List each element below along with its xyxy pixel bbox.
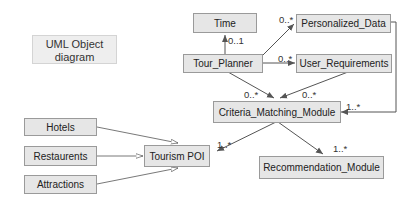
mult-personalized-criteria: 1..* (346, 101, 360, 112)
mult-tour-time: 0..1 (228, 35, 244, 46)
diagram-title-line2: diagram (33, 51, 116, 64)
mult-tour-personalized: 0..* (279, 14, 293, 25)
node-criteria-matching-module[interactable]: Criteria_Matching_Module (213, 101, 341, 123)
mult-tour-criteria: 0..* (244, 89, 258, 100)
node-recommendation-module-label: Recommendation_Module (263, 162, 380, 173)
diagram-title: UML Object diagram (32, 35, 117, 64)
node-attractions[interactable]: Attractions (24, 175, 97, 194)
node-user-requirements-label: User_Requirements (300, 58, 389, 69)
node-hotels-label: Hotels (46, 122, 74, 133)
mult-criteria-poi: 1..* (217, 139, 231, 150)
node-time[interactable]: Time (193, 13, 257, 33)
node-attractions-label: Attractions (37, 179, 84, 190)
mult-criteria-recommendation: 1..* (333, 143, 347, 154)
node-tour-planner[interactable]: Tour_Planner (183, 54, 263, 73)
node-personalized-data[interactable]: Personalized_Data (296, 14, 391, 33)
node-restaurents-label: Restaurents (34, 151, 88, 162)
mult-tour-userreq: 0..* (278, 53, 292, 64)
node-time-label: Time (214, 18, 236, 29)
node-restaurents[interactable]: Restaurents (24, 146, 97, 166)
node-tourism-poi-label: Tourism POI (149, 151, 204, 162)
node-user-requirements[interactable]: User_Requirements (296, 54, 392, 73)
node-tour-planner-label: Tour_Planner (193, 58, 252, 69)
node-hotels[interactable]: Hotels (24, 118, 97, 136)
mult-userreq-criteria: 0..* (302, 89, 316, 100)
node-tourism-poi[interactable]: Tourism POI (144, 145, 210, 167)
diagram-title-line1: UML Object (33, 38, 116, 51)
node-criteria-matching-module-label: Criteria_Matching_Module (219, 107, 336, 118)
node-personalized-data-label: Personalized_Data (301, 18, 386, 29)
node-recommendation-module[interactable]: Recommendation_Module (259, 156, 384, 179)
